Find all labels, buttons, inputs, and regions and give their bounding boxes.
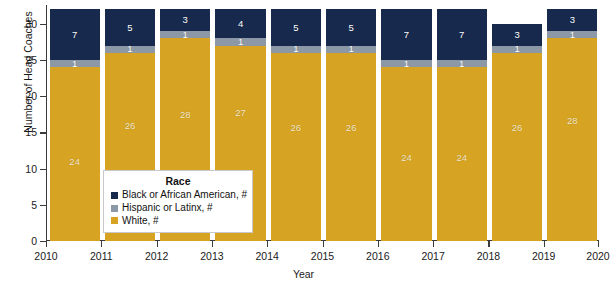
segment-black-2018: 3 (492, 24, 542, 46)
segment-value-label: 24 (401, 153, 412, 163)
bar-2016[interactable]: 2417 (381, 9, 431, 241)
segment-value-label: 27 (235, 108, 246, 118)
y-axis-tick (40, 132, 46, 133)
segment-white-2017: 24 (437, 67, 487, 241)
x-axis-tick-label: 2017 (421, 250, 444, 262)
legend-swatch-black (111, 192, 118, 199)
segment-white-2014: 26 (271, 53, 321, 241)
x-axis-tick-label: 2015 (311, 250, 334, 262)
segment-black-2010: 7 (50, 9, 100, 60)
x-axis-tick (101, 241, 102, 247)
segment-value-label: 24 (69, 157, 80, 167)
y-axis-tick-label: 0 (31, 235, 37, 247)
segment-value-label: 1 (349, 44, 354, 54)
y-axis-tick-label: 5 (31, 199, 37, 211)
segment-value-label: 24 (456, 153, 467, 163)
y-axis-tick-label: 10 (25, 163, 37, 175)
x-axis-tick-label: 2019 (532, 250, 555, 262)
segment-value-label: 3 (514, 30, 519, 40)
segment-value-label: 26 (512, 123, 523, 133)
segment-value-label: 1 (404, 59, 409, 69)
segment-hispanic-2018: 1 (492, 46, 542, 53)
segment-hispanic-2019: 1 (547, 31, 597, 38)
segment-hispanic-2015: 1 (326, 46, 376, 53)
segment-value-label: 1 (570, 30, 575, 40)
segment-value-label: 1 (293, 44, 298, 54)
x-axis-tick-label: 2014 (256, 250, 279, 262)
legend-label-black: Black or African American, # (122, 189, 247, 202)
segment-hispanic-2010: 1 (50, 60, 100, 67)
x-axis-tick (378, 241, 379, 247)
segment-hispanic-2013: 1 (215, 38, 265, 45)
legend-item-black[interactable]: Black or African American, # (111, 189, 245, 202)
segment-value-label: 3 (570, 15, 575, 25)
legend-label-white: White, # (122, 215, 159, 228)
legend-swatch-hispanic (111, 205, 118, 212)
segment-hispanic-2011: 1 (105, 46, 155, 53)
segment-value-label: 1 (72, 59, 77, 69)
segment-white-2016: 24 (381, 67, 431, 241)
segment-value-label: 1 (127, 44, 132, 54)
bar-2019[interactable]: 2813 (547, 9, 597, 241)
segment-hispanic-2014: 1 (271, 46, 321, 53)
segment-white-2015: 26 (326, 53, 376, 241)
legend-swatch-white (111, 217, 118, 224)
segment-value-label: 26 (346, 123, 357, 133)
x-axis-tick-label: 2012 (145, 250, 168, 262)
segment-black-2014: 5 (271, 9, 321, 45)
y-axis-tick (40, 169, 46, 170)
x-axis-tick (598, 241, 599, 247)
y-axis-tick-label: 30 (25, 18, 37, 30)
segment-value-label: 1 (514, 44, 519, 54)
y-axis-tick (40, 96, 46, 97)
segment-black-2011: 5 (105, 9, 155, 45)
segment-value-label: 26 (291, 123, 302, 133)
x-axis-tick (544, 241, 545, 247)
x-axis-tick-label: 2010 (34, 250, 57, 262)
bar-2017[interactable]: 2417 (437, 9, 487, 241)
x-axis-tick-label: 2018 (477, 250, 500, 262)
segment-black-2017: 7 (437, 9, 487, 60)
legend-label-hispanic: Hispanic or Latinx, # (122, 202, 213, 215)
legend-title: Race (111, 175, 245, 187)
segment-black-2013: 4 (215, 9, 265, 38)
segment-black-2019: 3 (547, 9, 597, 31)
segment-value-label: 4 (238, 19, 243, 29)
segment-hispanic-2016: 1 (381, 60, 431, 67)
segment-value-label: 7 (72, 30, 77, 40)
x-axis-tick (212, 241, 213, 247)
bar-2010[interactable]: 2417 (50, 9, 100, 241)
segment-black-2015: 5 (326, 9, 376, 45)
x-axis-title: Year (0, 268, 607, 280)
segment-value-label: 1 (238, 37, 243, 47)
segment-value-label: 1 (183, 30, 188, 40)
segment-white-2010: 24 (50, 67, 100, 241)
x-axis-tick (323, 241, 324, 247)
bar-2018[interactable]: 2613 (492, 24, 542, 241)
legend-item-hispanic[interactable]: Hispanic or Latinx, # (111, 202, 245, 215)
x-axis-tick (46, 241, 47, 247)
y-axis-tick-label: 25 (25, 54, 37, 66)
segment-value-label: 7 (404, 30, 409, 40)
segment-hispanic-2012: 1 (160, 31, 210, 38)
legend-item-white[interactable]: White, # (111, 215, 245, 228)
segment-value-label: 28 (567, 116, 578, 126)
segment-white-2019: 28 (547, 38, 597, 241)
x-axis-tick-label: 2011 (90, 250, 113, 262)
x-axis-tick (433, 241, 434, 247)
x-axis-tick-label: 2013 (200, 250, 223, 262)
y-axis-tick-label: 20 (25, 90, 37, 102)
x-axis-tick-label: 2016 (366, 250, 389, 262)
y-axis-tick (40, 60, 46, 61)
bar-2015[interactable]: 2615 (326, 9, 376, 241)
segment-black-2016: 7 (381, 9, 431, 60)
segment-value-label: 7 (459, 30, 464, 40)
x-axis-tick-label: 2020 (586, 250, 609, 262)
segment-black-2012: 3 (160, 9, 210, 31)
y-axis-tick (40, 205, 46, 206)
legend: Race Black or African American, # Hispan… (103, 170, 253, 233)
segment-value-label: 26 (125, 121, 136, 131)
y-axis-tick (40, 24, 46, 25)
bar-2014[interactable]: 2615 (271, 9, 321, 241)
